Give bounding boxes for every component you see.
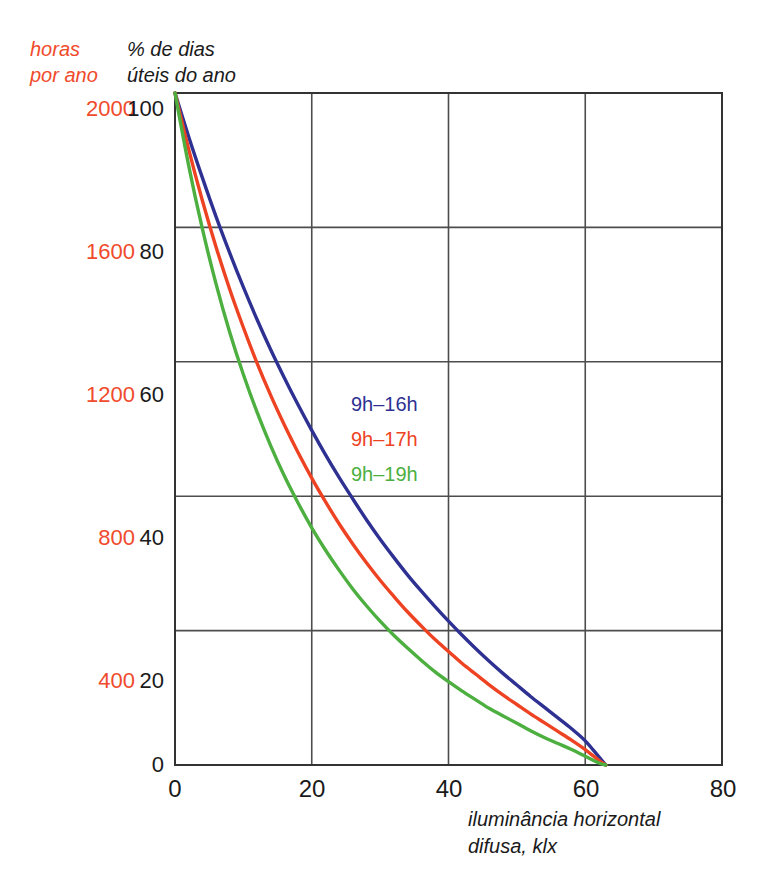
y-tick-60: 60 <box>118 382 164 408</box>
y-tick-80: 80 <box>118 239 164 265</box>
plot-frame <box>175 93 722 765</box>
legend-item-9h-19h: 9h–19h <box>351 463 418 486</box>
legend-item-9h-16h: 9h–16h <box>351 393 418 416</box>
legend-item-9h-17h: 9h–17h <box>351 428 418 451</box>
x-tick-40: 40 <box>419 775 479 803</box>
y-tick-100: 100 <box>118 96 164 122</box>
x-tick-60: 60 <box>556 775 616 803</box>
chart-figure: horas por ano % de dias úteis do ano 200… <box>0 0 760 869</box>
primary-y-axis-title: % de dias úteis do ano <box>127 36 287 88</box>
x-axis-title: iluminância horizontal difusa, klx <box>468 806 748 860</box>
y-tick-40: 40 <box>118 525 164 551</box>
x-tick-20: 20 <box>282 775 342 803</box>
secondary-y-axis-title: horas por ano <box>30 36 140 88</box>
x-tick-0: 0 <box>145 775 205 803</box>
grid-lines <box>175 93 722 765</box>
x-tick-80: 80 <box>693 775 753 803</box>
y-tick-20: 20 <box>118 668 164 694</box>
